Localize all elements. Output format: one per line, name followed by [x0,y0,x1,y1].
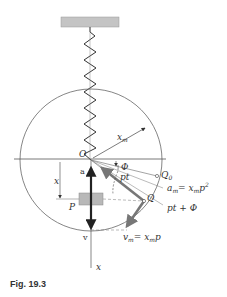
angle-total-label: pt + Φ [167,203,197,213]
phase-label: Φ [121,162,128,172]
oscillation-diagram: O xm Φ pt Q0 Q am= xmp2 pt + Φ vm= xmp x… [0,0,227,297]
vel-max-label: vm= xmp [123,232,161,243]
q-label: Q [147,193,155,203]
point-q0 [155,174,158,177]
axis-x-label: x [96,262,101,272]
block-label: P [68,202,76,212]
vel-max-arrow [127,201,144,226]
q0-label: Q0 [161,170,172,181]
velocity-label: v [82,233,88,242]
point-q [142,199,145,202]
figure-caption: Fig. 19.3 [10,279,46,289]
accel-label: a [80,167,85,176]
accel-max-label: am= xmp2 [167,181,209,194]
pt-label: pt [120,172,130,182]
ceiling-support [61,17,119,27]
displacement-label: x [54,176,59,186]
origin-label: O [79,149,87,159]
radius-label: xm [117,132,128,143]
